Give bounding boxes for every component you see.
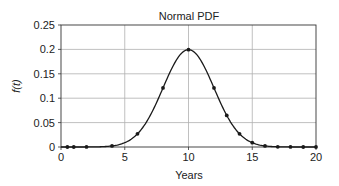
- data-point-marker: [72, 145, 76, 149]
- data-point-marker: [85, 145, 89, 149]
- y-tick-label: 0.25: [34, 19, 55, 31]
- y-tick-label: 0.15: [34, 68, 55, 80]
- data-point-marker: [65, 145, 69, 149]
- y-tick-label: 0.2: [40, 43, 55, 55]
- x-tick-label: 0: [58, 151, 64, 163]
- gridlines: [61, 25, 316, 147]
- y-axis-label: f(t): [10, 79, 22, 93]
- data-point-marker: [136, 132, 140, 136]
- data-point-marker: [238, 132, 242, 136]
- data-point-marker: [314, 145, 318, 149]
- x-axis-label: Years: [175, 169, 203, 181]
- normal-pdf-chart: 0510152000.050.10.150.20.25 Normal PDF Y…: [0, 0, 339, 186]
- data-point-marker: [276, 145, 280, 149]
- y-tick-label: 0.05: [34, 117, 55, 129]
- data-point-marker: [250, 141, 254, 145]
- data-point-marker: [212, 86, 216, 90]
- data-point-marker: [225, 113, 229, 117]
- data-point-marker: [161, 86, 165, 90]
- y-tick-label: 0.1: [40, 92, 55, 104]
- tick-labels: 0510152000.050.10.150.20.25: [34, 19, 323, 163]
- chart-container: 0510152000.050.10.150.20.25 Normal PDF Y…: [0, 0, 339, 186]
- data-point-marker: [289, 145, 293, 149]
- x-tick-label: 5: [122, 151, 128, 163]
- x-tick-label: 15: [246, 151, 258, 163]
- x-tick-label: 20: [310, 151, 322, 163]
- data-point-marker: [110, 144, 114, 148]
- data-point-marker: [263, 144, 267, 148]
- y-tick-label: 0: [49, 141, 55, 153]
- x-tick-label: 10: [182, 151, 194, 163]
- data-point-marker: [301, 145, 305, 149]
- data-point-marker: [187, 48, 191, 52]
- chart-title: Normal PDF: [159, 10, 220, 22]
- axes: [58, 25, 316, 150]
